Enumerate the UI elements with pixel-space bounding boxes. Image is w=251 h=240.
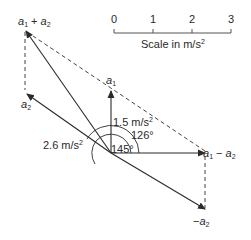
sum-sub1: 1 [24, 21, 28, 28]
angle-126: 126° [131, 130, 154, 141]
scale-tick-3: 3 [228, 14, 234, 25]
diff-sub1: 1 [209, 153, 213, 160]
scale-caption-sup: 2 [201, 38, 205, 45]
a2-sub: 2 [27, 104, 31, 111]
a1-sub: 1 [112, 80, 116, 87]
diff-sub2: 2 [232, 153, 236, 160]
magnitude-a2-text: 2.6 m/s [43, 139, 79, 151]
diff-op: − [216, 147, 222, 159]
scale-tick-1: 1 [150, 14, 156, 25]
vector-neg-a2 [111, 153, 205, 209]
label-a2: a2 [21, 99, 31, 111]
label-a1-plus-a2: a1 + a2 [18, 16, 51, 28]
scale-tick-0: 0 [111, 14, 117, 25]
label-a1: a1 [106, 75, 116, 87]
scale-caption-text: Scale in m/s [141, 38, 201, 50]
magnitude-a1: 1.5 m/s2 [113, 116, 153, 128]
sum-op: + [31, 15, 37, 27]
neg-a2-sub: 2 [206, 221, 210, 228]
scale-bar [114, 29, 231, 33]
vector-a1-plus-a2 [26, 31, 111, 153]
scale-tick-2: 2 [189, 14, 195, 25]
label-neg-a2: −a2 [193, 216, 209, 228]
label-a1-minus-a2: a1 − a2 [203, 148, 236, 160]
scale-caption: Scale in m/s2 [141, 38, 205, 50]
magnitude-a2: 2.6 m/s2 [43, 139, 83, 151]
sum-sub2: 2 [47, 21, 51, 28]
angle-145: 145° [111, 144, 134, 155]
magnitude-a2-sup: 2 [79, 139, 83, 146]
magnitude-a1-text: 1.5 m/s [113, 116, 149, 128]
magnitude-a1-sup: 2 [149, 116, 153, 123]
